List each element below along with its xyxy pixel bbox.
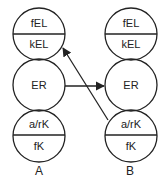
b-top-lower-label: kEL <box>122 38 141 50</box>
column-a-label: A <box>35 164 43 178</box>
a-top-upper-label: fEL <box>31 17 48 29</box>
b-middle-label: ER <box>123 79 138 91</box>
column-a: fEL kEL ER a/rK fK A <box>13 8 65 178</box>
arrow-b-ark-to-a-kel <box>63 48 108 120</box>
a-bottom-upper-label: a/rK <box>29 118 50 130</box>
b-bottom-lower-label: fK <box>126 140 137 152</box>
column-b: fEL kEL ER a/rK fK B <box>105 8 157 178</box>
a-middle-label: ER <box>31 79 46 91</box>
diagram-canvas: fEL kEL ER a/rK fK A fEL kEL ER a/rK fK … <box>0 0 165 184</box>
column-b-label: B <box>126 164 134 178</box>
b-top-upper-label: fEL <box>123 17 140 29</box>
a-bottom-lower-label: fK <box>34 140 45 152</box>
b-bottom-upper-label: a/rK <box>121 118 142 130</box>
a-top-lower-label: kEL <box>30 38 49 50</box>
